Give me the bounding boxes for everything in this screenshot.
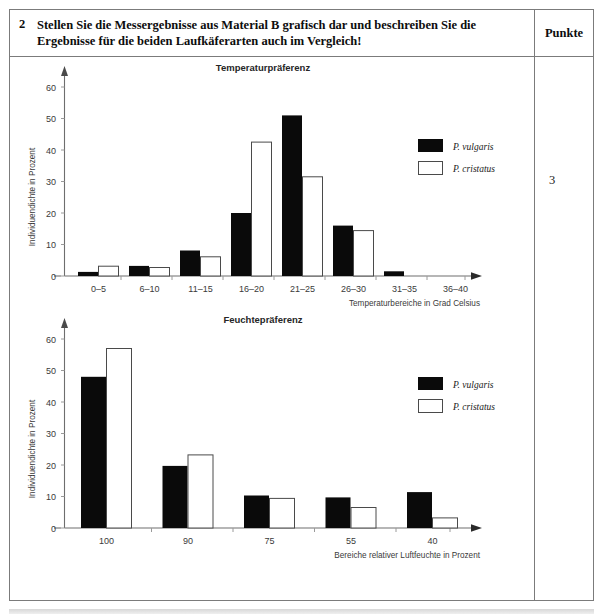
chart2-ytick-2: 20 [46,461,56,471]
chart2-bar-vulgaris-2 [244,496,269,529]
chart2-bar-vulgaris-1 [163,466,188,528]
task-text: Stellen Sie die Messergebnisse aus Mater… [37,17,526,49]
chart2-ytick-0: 0 [51,524,56,534]
chart2-bar-cristatus-2 [270,498,295,528]
task-body-row: Temperaturpräferenz Individuendichte in … [10,57,593,600]
chart2-cat-1: 90 [183,536,193,546]
chart2-cat-3: 55 [346,536,356,546]
chart1-cat-6: 31–35 [392,284,417,294]
chart1-ytick-3: 30 [46,177,56,187]
chart1-cat-5: 26–30 [341,284,366,294]
chart1-bars [78,115,404,276]
chart1-title: Temperaturpräferenz [216,62,311,73]
chart1-x-tick-labels: 0–5 6–10 11–15 16–20 21–25 26–30 31–35 3… [91,284,468,294]
chart2-cat-2: 75 [264,536,274,546]
chart1-ytick-0: 0 [51,272,56,282]
chart2-ytick-4: 40 [46,398,56,408]
chart2-cat-0: 100 [99,536,114,546]
chart1-legend-swatch-vulgaris [418,139,443,152]
score-value: 3 [549,173,555,188]
chart2-bar-cristatus-3 [351,508,376,529]
chart2-x-axis-arrow [471,524,482,532]
chart1-bar-cristatus-3 [252,142,272,276]
chart1-bar-cristatus-2 [201,257,221,276]
chart1-cat-2: 11–15 [188,284,212,294]
chart2-bar-vulgaris-3 [326,497,351,528]
chart1-ytick-1: 10 [46,240,56,250]
chart2-legend-swatch-cristatus [419,400,443,413]
chart1-bar-cristatus-0 [99,266,119,276]
chart1-cat-4: 21–25 [290,284,315,294]
score-cell[interactable]: 3 [535,57,593,600]
chart1-x-ticks [121,276,465,280]
chart1-x-axis-arrow [471,272,482,280]
task-prompt-cell: 2 Stellen Sie die Messergebnisse aus Mat… [10,10,535,56]
chart1-y-axis-arrow [61,66,68,76]
chart1-bar-vulgaris-1 [129,266,149,276]
chart1-bar-vulgaris-0 [78,272,98,276]
chart-temperaturpraeferenz: Temperaturpräferenz Individuendichte in … [10,57,535,309]
chart2-xlabel: Bereiche relativer Luftfeuchte in Prozen… [334,551,480,559]
chart2-bars [81,349,458,529]
chart2-legend-swatch-vulgaris [418,377,443,390]
chart1-bar-cristatus-4 [303,177,323,276]
chart1-ytick-6: 60 [46,83,56,93]
chart2-ytick-1: 10 [46,492,56,502]
chart1-bar-vulgaris-5 [333,226,353,276]
chart2-legend-label-cristatus: P. cristatus [452,402,495,412]
chart1-cat-0: 0–5 [91,284,106,294]
points-header-cell: Punkte [535,10,593,56]
chart1-legend: P. vulgaris P. cristatus [418,139,495,175]
chart2-x-tick-labels: 100 90 75 55 40 [99,536,438,546]
chart1-ytick-2: 20 [46,209,56,219]
exam-page: 2 Stellen Sie die Messergebnisse aus Mat… [0,0,604,616]
chart1-xlabel: Temperaturbereiche in Grad Celsius [349,299,480,308]
chart1-bar-vulgaris-2 [180,251,200,277]
points-header-label: Punkte [545,26,583,41]
chart1-ytick-4: 40 [46,146,56,156]
chart1-ytick-5: 50 [46,114,56,124]
chart1-cat-7: 36–40 [443,284,468,294]
chart-feuchtepraeferenz: Feuchtepräferenz Individuendichte in Pro… [10,309,535,559]
chart2-ytick-6: 60 [46,335,56,345]
chart1-ylabel: Individuendichte in Prozent [28,147,37,246]
chart2-legend-label-vulgaris: P. vulgaris [452,380,494,390]
chart1-legend-label-vulgaris: P. vulgaris [452,142,494,152]
chart2-bar-cristatus-4 [433,518,458,528]
chart1-legend-label-cristatus: P. cristatus [452,164,495,174]
task-header-row: 2 Stellen Sie die Messergebnisse aus Mat… [10,10,593,57]
task-number: 2 [19,17,25,32]
chart2-bar-vulgaris-0 [81,377,106,528]
chart2-bar-cristatus-1 [188,455,213,528]
chart2-y-tick-labels: 0 10 20 30 40 50 60 [46,335,56,534]
exam-task-table: 2 Stellen Sie die Messergebnisse aus Mat… [9,9,594,601]
answer-cell: Temperaturpräferenz Individuendichte in … [10,57,535,600]
chart1-bar-vulgaris-4 [282,115,302,276]
chart2-ytick-3: 30 [46,429,56,439]
chart2-legend: P. vulgaris P. cristatus [418,377,495,413]
chart2-ylabel: Individuendichte in Prozent [28,399,37,498]
chart1-bar-cristatus-5 [354,231,374,276]
chart1-legend-swatch-cristatus [419,162,443,175]
chart2-cat-4: 40 [427,536,437,546]
page-bottom-strip [9,609,594,614]
chart1-y-tick-labels: 0 10 20 30 40 50 60 [46,83,56,282]
chart1-cat-3: 16–20 [239,284,264,294]
chart1-bar-vulgaris-3 [231,213,251,276]
chart2-ytick-5: 50 [46,366,56,376]
chart1-bar-vulgaris-6 [384,271,404,276]
chart2-bar-cristatus-0 [107,349,132,529]
chart2-bar-vulgaris-4 [407,492,432,528]
chart1-bar-cristatus-1 [150,268,170,277]
chart1-cat-1: 6–10 [139,284,159,294]
chart2-x-ticks [152,528,451,532]
chart2-y-axis-arrow [61,318,68,328]
chart2-title: Feuchtepräferenz [223,314,302,325]
